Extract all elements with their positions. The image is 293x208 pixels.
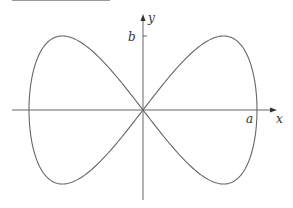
y-axis-arrow-icon [141,14,146,21]
y-axis-label: y [147,11,155,25]
x-tick-label-a: a [246,112,253,126]
y-tick-label-b: b [128,30,136,44]
x-axis-label: x [276,112,283,126]
figure-eight-diagram: y b a x [0,0,293,208]
